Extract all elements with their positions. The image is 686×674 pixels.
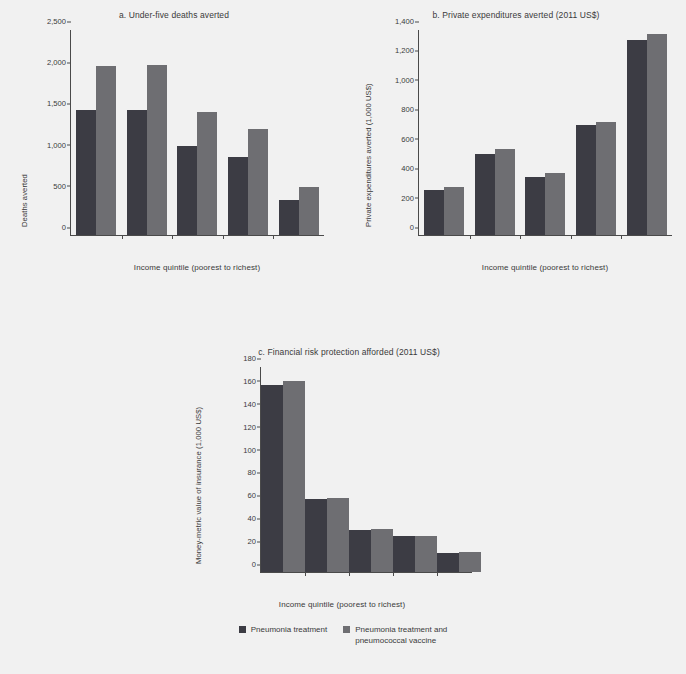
bar-series-0[interactable] — [76, 110, 96, 235]
bar-group — [223, 30, 274, 235]
y-tick-label: 0 — [252, 560, 260, 569]
bar-group — [122, 30, 173, 235]
bar-series-1[interactable] — [248, 129, 268, 235]
bar-group — [261, 367, 305, 572]
bar-series-1[interactable] — [415, 536, 437, 572]
figure-panels: a. Under-five deaths averted Deaths aver… — [0, 0, 686, 674]
bar-series-1[interactable] — [147, 65, 167, 235]
panel-b-bar-groups — [419, 30, 672, 235]
panel-c-bars — [260, 367, 472, 573]
bar-series-0[interactable] — [305, 499, 327, 572]
bar-series-1[interactable] — [495, 149, 515, 235]
panel-c-title: c. Financial risk protection afforded (2… — [178, 347, 520, 357]
y-tick-label: 20 — [248, 537, 260, 546]
panel-c-bar-groups — [261, 367, 472, 572]
bar-group — [305, 367, 349, 572]
bar-series-0[interactable] — [177, 146, 197, 235]
bar-group — [437, 367, 481, 572]
legend-item[interactable]: Pneumonia treatment and pneumococcal vac… — [343, 624, 447, 646]
y-tick-label: 1,400 — [395, 17, 418, 26]
bar-series-0[interactable] — [437, 553, 459, 572]
panel-b-x-axis-label: Income quintile (poorest to richest) — [408, 263, 682, 272]
y-tick-label: 40 — [248, 514, 260, 523]
chart-legend: Pneumonia treatmentPneumonia treatment a… — [0, 624, 686, 646]
bar-series-1[interactable] — [327, 498, 349, 572]
panel-b-y-ticks: 02004006008001,0001,2001,400 — [350, 30, 418, 236]
bar-series-1[interactable] — [371, 529, 393, 572]
bar-series-1[interactable] — [596, 122, 616, 235]
bar-group — [273, 30, 324, 235]
y-tick-label: 1,000 — [395, 75, 418, 84]
legend-item[interactable]: Pneumonia treatment — [239, 624, 328, 646]
legend-label: Pneumonia treatment — [251, 624, 328, 635]
y-tick-label: 0 — [410, 223, 418, 232]
y-tick-label: 2,000 — [47, 58, 70, 67]
legend-swatch-icon — [239, 626, 246, 633]
bar-series-1[interactable] — [197, 112, 217, 235]
bar-series-1[interactable] — [545, 173, 565, 235]
bar-group — [71, 30, 122, 235]
bar-series-1[interactable] — [283, 381, 305, 572]
bar-group — [172, 30, 223, 235]
panel-a-under-five-deaths-averted: a. Under-five deaths averted Deaths aver… — [8, 10, 340, 272]
panel-a-bar-groups — [71, 30, 324, 235]
panel-c-x-axis-label: Income quintile (poorest to richest) — [212, 600, 472, 609]
panel-c-y-ticks: 020406080100120140160180 — [198, 367, 260, 573]
bar-series-1[interactable] — [459, 552, 481, 572]
legend-label: Pneumonia treatment and pneumococcal vac… — [355, 624, 447, 646]
bar-series-0[interactable] — [393, 536, 415, 572]
y-tick-label: 1,200 — [395, 46, 418, 55]
y-tick-label: 100 — [243, 445, 260, 454]
bar-group — [621, 30, 672, 235]
y-tick-label: 1,000 — [47, 140, 70, 149]
bar-group — [393, 367, 437, 572]
panel-c-financial-risk-protection: c. Financial risk protection afforded (2… — [178, 347, 520, 609]
y-tick-label: 500 — [53, 181, 70, 190]
y-tick-label: 200 — [401, 193, 418, 202]
bar-series-0[interactable] — [127, 110, 147, 235]
bar-series-0[interactable] — [627, 40, 647, 235]
y-tick-label: 800 — [401, 105, 418, 114]
bar-series-1[interactable] — [444, 187, 464, 235]
legend-swatch-icon — [343, 626, 350, 633]
bar-group — [349, 367, 393, 572]
y-tick-label: 60 — [248, 491, 260, 500]
y-tick-label: 180 — [243, 354, 260, 363]
bar-series-0[interactable] — [424, 190, 444, 235]
y-tick-label: 140 — [243, 399, 260, 408]
bar-group — [470, 30, 521, 235]
bar-series-0[interactable] — [261, 385, 283, 572]
panel-a-y-ticks: 05001,0001,5002,0002,500 — [8, 30, 70, 236]
bar-series-0[interactable] — [576, 125, 596, 235]
bar-series-0[interactable] — [525, 177, 545, 235]
panel-b-private-expenditures-averted: b. Private expenditures averted (2011 US… — [350, 10, 682, 272]
y-tick-label: 0 — [62, 223, 70, 232]
y-tick-label: 120 — [243, 422, 260, 431]
y-tick-label: 160 — [243, 376, 260, 385]
y-tick-label: 2,500 — [47, 17, 70, 26]
bar-series-0[interactable] — [349, 530, 371, 572]
y-tick-label: 400 — [401, 164, 418, 173]
bar-group — [571, 30, 622, 235]
y-tick-label: 600 — [401, 134, 418, 143]
bar-series-1[interactable] — [647, 34, 667, 235]
bar-group — [520, 30, 571, 235]
panel-a-x-axis-label: Income quintile (poorest to richest) — [54, 263, 340, 272]
panel-a-plot-area: Deaths averted 05001,0001,5002,0002,500 — [8, 26, 340, 256]
bar-series-0[interactable] — [475, 154, 495, 235]
y-tick-label: 1,500 — [47, 99, 70, 108]
panel-b-bars — [418, 30, 672, 236]
y-tick-label: 80 — [248, 468, 260, 477]
bar-series-0[interactable] — [228, 157, 248, 235]
panel-c-plot-area: Money-metric value of insurance (1,000 U… — [178, 363, 520, 593]
panel-a-bars — [70, 30, 324, 236]
bar-series-1[interactable] — [96, 66, 116, 235]
bar-group — [419, 30, 470, 235]
panel-b-plot-area: Private expenditures averted (1,000 US$)… — [350, 26, 682, 256]
bar-series-0[interactable] — [279, 200, 299, 235]
bar-series-1[interactable] — [299, 187, 319, 235]
